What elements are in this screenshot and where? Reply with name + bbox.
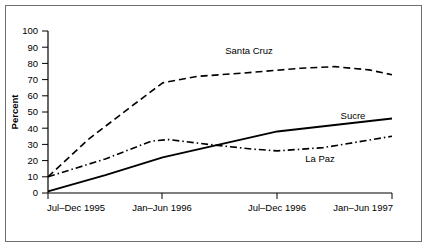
- x-axis-tick-labels: Jul–Dec 1995 Jan–Jun 1996 Jul–Dec 1996 J…: [47, 202, 393, 213]
- series-layer: [48, 67, 392, 192]
- y-tick-label: 30: [27, 139, 38, 150]
- series-annotations: Santa Cruz Sucre La Paz: [225, 45, 365, 164]
- series-label-la-paz: La Paz: [305, 153, 335, 164]
- y-axis-tick-labels: 0 10 20 30 40 50 60 70 80 90 100: [22, 25, 38, 198]
- series-line-la-paz: [48, 136, 392, 177]
- y-tick-label: 0: [33, 187, 38, 198]
- series-label-santa-cruz: Santa Cruz: [225, 45, 273, 56]
- y-tick-label: 60: [27, 90, 38, 101]
- line-chart: 0 10 20 30 40 50 60 70 80 90 100 Percent…: [0, 0, 427, 247]
- x-axis-ticks: [48, 193, 392, 199]
- x-tick-label: Jan–Jun 1997: [333, 202, 393, 213]
- y-tick-label: 80: [27, 58, 38, 69]
- y-axis-ticks: [42, 31, 48, 193]
- series-line-sucre: [48, 118, 392, 191]
- chart-figure: 0 10 20 30 40 50 60 70 80 90 100 Percent…: [0, 0, 427, 247]
- y-tick-label: 40: [27, 123, 38, 134]
- y-tick-label: 100: [22, 25, 38, 36]
- y-tick-label: 10: [27, 171, 38, 182]
- y-tick-label: 50: [27, 106, 38, 117]
- x-tick-label: Jul–Dec 1995: [47, 202, 105, 213]
- y-tick-label: 20: [27, 155, 38, 166]
- y-axis-title: Percent: [9, 94, 20, 130]
- series-label-sucre: Sucre: [341, 110, 366, 121]
- x-tick-label: Jul–Dec 1996: [248, 202, 306, 213]
- x-tick-label: Jan–Jun 1996: [132, 202, 192, 213]
- y-tick-label: 70: [27, 74, 38, 85]
- y-tick-label: 90: [27, 42, 38, 53]
